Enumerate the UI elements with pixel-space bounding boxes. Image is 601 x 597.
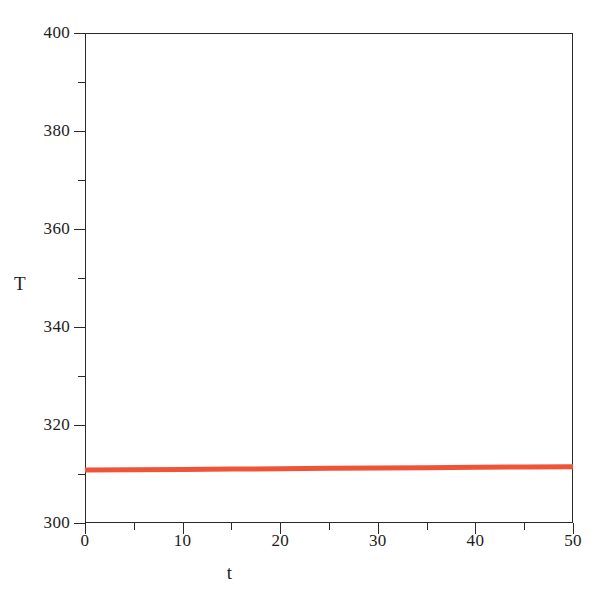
- y-tick-label: 300: [44, 513, 70, 533]
- x-tick-minor: [524, 523, 525, 530]
- x-tick-label: 30: [369, 531, 387, 551]
- x-tick-label: 0: [81, 531, 90, 551]
- y-tick-label: 400: [44, 23, 70, 43]
- series-layer: [85, 33, 573, 523]
- x-tick-minor: [329, 523, 330, 530]
- y-tick-minor: [78, 180, 85, 181]
- y-tick-major: [74, 131, 85, 132]
- y-tick-label: 320: [44, 415, 70, 435]
- y-tick-minor: [78, 474, 85, 475]
- x-tick-minor: [231, 523, 232, 530]
- y-tick-major: [74, 229, 85, 230]
- x-tick-label: 50: [564, 531, 582, 551]
- x-tick-label: 40: [467, 531, 485, 551]
- y-tick-major: [74, 523, 85, 524]
- y-tick-major: [74, 425, 85, 426]
- chart-figure: T 300320340360380400 01020304050 t: [0, 0, 601, 597]
- y-tick-major: [74, 33, 85, 34]
- x-tick-label: 10: [174, 531, 192, 551]
- y-tick-minor: [78, 278, 85, 279]
- x-tick-label: 20: [271, 531, 289, 551]
- x-tick-minor: [134, 523, 135, 530]
- y-tick-minor: [78, 376, 85, 377]
- y-tick-label: 360: [44, 219, 70, 239]
- x-tick-minor: [427, 523, 428, 530]
- x-axis-tick-labels: 01020304050: [85, 531, 573, 557]
- y-axis-tick-labels: 300320340360380400: [0, 33, 70, 523]
- series-line: [85, 467, 573, 470]
- y-tick-minor: [78, 82, 85, 83]
- y-tick-major: [74, 327, 85, 328]
- y-tick-label: 380: [44, 121, 70, 141]
- x-axis-title-text: t: [227, 562, 232, 583]
- y-tick-label: 340: [44, 317, 70, 337]
- x-axis-title: t: [0, 562, 601, 584]
